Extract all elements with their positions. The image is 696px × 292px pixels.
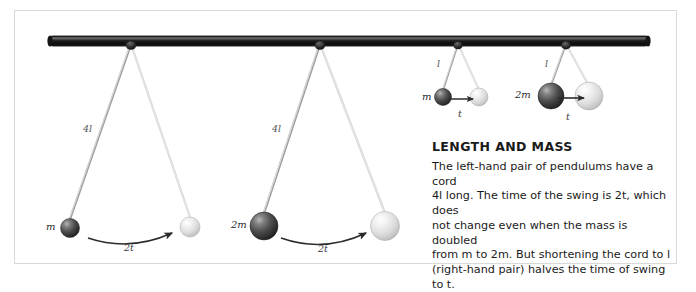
caption-line-3: not change even when the mass is doubled (432, 219, 672, 249)
cord-label-pendulum-1: 4l (83, 124, 92, 134)
caption-block: LENGTH AND MASS The left-hand pair of pe… (432, 140, 672, 292)
caption-line-4: from m to 2m. But shortening the cord to… (432, 248, 672, 263)
caption-line-1: The left-hand pair of pendulums have a c… (432, 160, 672, 190)
caption-line-2: 4l long. The time of the swing is 2t, wh… (432, 189, 672, 219)
caption-body: The left-hand pair of pendulums have a c… (432, 160, 672, 292)
mass-label-pendulum-3: m (422, 92, 431, 102)
mass-label-pendulum-2: 2m (231, 220, 247, 230)
mass-label-pendulum-1: m (46, 222, 55, 232)
mass-label-pendulum-4: 2m (515, 90, 531, 100)
cord-label-pendulum-2: 4l (272, 124, 281, 134)
time-label-pendulum-4: t (566, 112, 570, 122)
time-label-pendulum-3: t (458, 109, 462, 119)
time-label-pendulum-2: 2t (318, 244, 328, 254)
caption-heading: LENGTH AND MASS (432, 140, 672, 154)
cord-label-pendulum-3: l (437, 59, 440, 69)
time-label-pendulum-1: 2t (124, 243, 134, 253)
caption-line-5: (right-hand pair) halves the time of swi… (432, 263, 672, 292)
cord-label-pendulum-4: l (545, 59, 548, 69)
